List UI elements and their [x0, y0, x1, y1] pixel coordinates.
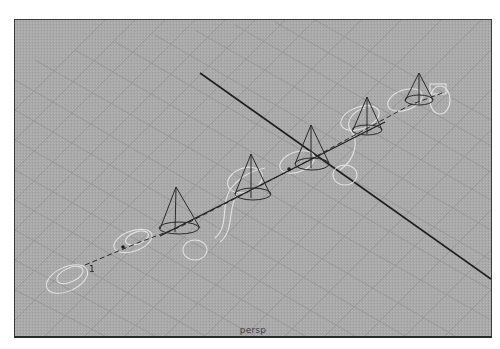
camera-label: persp [15, 325, 491, 335]
path-label: 1 [89, 264, 95, 274]
viewport-background [15, 20, 491, 336]
path-point-marker [121, 245, 125, 249]
scene-canvas[interactable]: 1 [15, 20, 491, 336]
perspective-viewport[interactable]: 1 [14, 19, 492, 338]
path-point-marker [287, 167, 291, 171]
